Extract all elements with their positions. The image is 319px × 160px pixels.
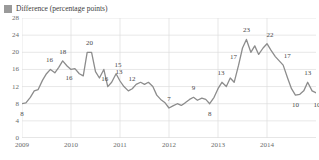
data-point-label: 16 bbox=[46, 57, 53, 64]
x-tick-label: 2011 bbox=[113, 141, 127, 149]
chart-legend: Difference (percentage points) bbox=[4, 3, 107, 14]
x-tick-label: 2013 bbox=[211, 141, 225, 149]
data-point-label: 10 bbox=[314, 102, 319, 109]
plot-area: 816181620161513127981317232217101310 bbox=[22, 18, 316, 138]
data-point-label: 13 bbox=[304, 70, 311, 77]
data-point-label: 16 bbox=[66, 75, 73, 82]
data-point-label: 9 bbox=[192, 85, 196, 92]
data-point-label: 12 bbox=[128, 75, 135, 82]
data-point-label: 10 bbox=[292, 102, 299, 109]
data-point-label: 13 bbox=[116, 69, 123, 76]
x-axis: 200920102011201220132014 bbox=[22, 141, 316, 155]
data-point-label: 18 bbox=[59, 48, 66, 55]
data-point-label: 17 bbox=[284, 53, 291, 60]
data-point-label: 20 bbox=[86, 40, 93, 47]
x-tick-label: 2009 bbox=[15, 141, 29, 149]
x-tick-label: 2012 bbox=[162, 141, 176, 149]
y-tick-label: 12 bbox=[12, 83, 19, 90]
y-tick-label: 16 bbox=[12, 66, 19, 73]
y-tick-label: 4 bbox=[16, 117, 20, 124]
data-point-label: 16 bbox=[101, 76, 108, 83]
chart-container: Difference (percentage points) 048121620… bbox=[0, 0, 319, 160]
x-tick-label: 2014 bbox=[260, 141, 274, 149]
x-tick-label: 2010 bbox=[64, 141, 78, 149]
y-tick-label: 28 bbox=[12, 15, 19, 22]
data-point-label: 8 bbox=[208, 110, 212, 117]
legend-swatch-icon bbox=[4, 5, 12, 13]
legend-label: Difference (percentage points) bbox=[16, 4, 107, 13]
data-point-label: 7 bbox=[167, 96, 171, 103]
data-point-label: 22 bbox=[267, 31, 274, 38]
data-point-label: 23 bbox=[243, 27, 250, 34]
y-tick-label: 24 bbox=[12, 32, 19, 39]
data-point-label: 17 bbox=[230, 54, 237, 61]
data-point-label: 8 bbox=[20, 110, 24, 117]
y-axis: 0481216202428 bbox=[0, 18, 19, 138]
y-tick-label: 8 bbox=[16, 100, 20, 107]
data-point-label: 13 bbox=[217, 70, 224, 77]
y-tick-label: 20 bbox=[12, 49, 19, 56]
